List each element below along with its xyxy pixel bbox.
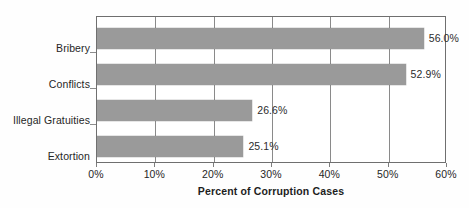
bar-chart: Bribery Conflicts Illegal Gratuities Ext… [0, 0, 469, 208]
xtick-label-10: 10% [132, 168, 176, 180]
bar-value-conflicts: 52.9% [411, 68, 441, 80]
xtick-mark-40 [329, 163, 330, 167]
bar-conflicts[interactable] [97, 64, 406, 85]
bar-extortion[interactable] [97, 136, 243, 157]
xtick-mark-60 [446, 163, 447, 167]
xtick-mark-0 [96, 163, 97, 167]
category-label-conflicts: Conflicts [49, 78, 90, 90]
xtick-label-60: 60% [424, 168, 468, 180]
bar-illegal-gratuities[interactable] [97, 100, 252, 121]
xtick-mark-20 [213, 163, 214, 167]
plot-area: 56.0% 52.9% 26.6% 25.1% [96, 16, 446, 163]
xtick-mark-50 [388, 163, 389, 167]
xtick-mark-10 [154, 163, 155, 167]
category-axis-labels: Bribery Conflicts Illegal Gratuities Ext… [0, 16, 90, 163]
xtick-label-50: 50% [366, 168, 410, 180]
xtick-mark-30 [271, 163, 272, 167]
xtick-label-20: 20% [191, 168, 235, 180]
x-axis-title: Percent of Corruption Cases [96, 185, 446, 197]
category-label-extortion: Extortion [48, 150, 90, 162]
bar-value-illegal-gratuities: 26.6% [257, 104, 287, 116]
bar-bribery[interactable] [97, 28, 424, 49]
category-label-bribery: Bribery [56, 42, 90, 54]
bar-value-bribery: 56.0% [429, 32, 459, 44]
xtick-label-40: 40% [307, 168, 351, 180]
xtick-label-30: 30% [249, 168, 293, 180]
bar-value-extortion: 25.1% [248, 140, 278, 152]
category-label-illegal-gratuities: Illegal Gratuities [13, 114, 90, 126]
xtick-label-0: 0% [74, 168, 118, 180]
